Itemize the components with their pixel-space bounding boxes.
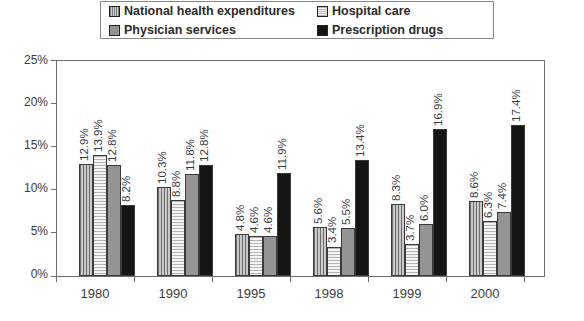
bars-container: 12.9% 13.9% 12.8% 8.2% 10.3% 8.8% 11.8% …: [57, 61, 544, 276]
bar-value-1999-0: 8.3%: [391, 175, 402, 201]
legend-label-national-health-expenditures: National health expenditures: [124, 5, 295, 18]
bar-1995-national-health-expenditures: [235, 234, 249, 276]
bar-value-1999-2: 6.0%: [419, 195, 430, 221]
bar-1999-physician-services: [419, 224, 433, 276]
chart-legend: National health expenditures Hospital ca…: [100, 1, 494, 39]
bar-value-2000-0: 8.6%: [469, 172, 480, 198]
bar-2000-prescription-drugs: [511, 125, 525, 276]
bar-value-1990-2: 11.8%: [185, 139, 196, 171]
bar-value-1990-1: 8.8%: [171, 171, 182, 197]
bar-1980-prescription-drugs: [121, 205, 135, 276]
bar-value-1980-1: 13.9%: [93, 119, 104, 152]
legend-swatch-icon-hospital-care: [317, 6, 328, 17]
bar-value-2000-1: 6.3%: [483, 192, 494, 218]
bar-value-1995-0: 4.8%: [235, 205, 246, 231]
bar-value-1980-3: 8.2%: [121, 176, 132, 202]
y-tick-label-25: 25%: [8, 54, 48, 66]
bar-1998-hospital-care: [327, 247, 341, 277]
bar-value-2000-3: 17.4%: [511, 89, 522, 122]
legend-entry-prescription-drugs: Prescription drugs: [317, 21, 443, 40]
bar-2000-national-health-expenditures: [469, 201, 483, 276]
plot-area: 12.9% 13.9% 12.8% 8.2% 10.3% 8.8% 11.8% …: [56, 60, 545, 277]
x-tick-mark-5: [524, 277, 525, 282]
bar-1980-national-health-expenditures: [79, 164, 93, 276]
bar-value-1998-3: 13.4%: [355, 124, 366, 157]
legend-entry-physician-services: Physician services: [109, 21, 236, 40]
bar-value-2000-2: 7.4%: [497, 183, 508, 209]
legend-label-hospital-care: Hospital care: [332, 5, 411, 18]
bar-1999-prescription-drugs: [433, 129, 447, 276]
bar-1999-hospital-care: [405, 244, 419, 276]
bar-1995-hospital-care: [249, 236, 263, 276]
x-tick-mark-0: [134, 277, 135, 282]
bar-value-1990-3: 12.8%: [199, 129, 210, 162]
bar-1998-prescription-drugs: [355, 160, 369, 276]
bar-1990-physician-services: [185, 174, 199, 276]
bar-value-1980-0: 12.9%: [79, 128, 90, 161]
x-tick-label-1995: 1995: [221, 287, 281, 301]
bar-1990-hospital-care: [171, 200, 185, 276]
x-tick-mark-3: [368, 277, 369, 282]
legend-row-2: Physician services Prescription drugs: [101, 21, 493, 40]
x-tick-label-1998: 1998: [299, 287, 359, 301]
legend-swatch-icon-physician-services: [109, 25, 120, 36]
y-tick-label-10: 10%: [8, 182, 48, 194]
bar-value-1999-1: 3.7%: [405, 215, 416, 241]
x-tick-label-1999: 1999: [377, 287, 437, 301]
y-tick-label-20: 20%: [8, 96, 48, 108]
bar-value-1995-1: 4.6%: [249, 207, 260, 233]
bar-1999-national-health-expenditures: [391, 204, 405, 276]
bar-2000-hospital-care: [483, 221, 497, 276]
bar-1990-national-health-expenditures: [157, 187, 171, 276]
x-tick-mark-4: [446, 277, 447, 282]
bar-value-1995-2: 4.6%: [263, 207, 274, 233]
bar-value-1990-0: 10.3%: [157, 151, 168, 184]
legend-label-prescription-drugs: Prescription drugs: [332, 24, 443, 37]
bar-value-1999-3: 16.9%: [433, 93, 444, 126]
legend-entry-hospital-care: Hospital care: [317, 2, 411, 21]
x-tick-mark-left-edge: [56, 277, 57, 282]
y-tick-label-5: 5%: [8, 225, 48, 237]
legend-label-physician-services: Physician services: [124, 24, 236, 37]
bar-1998-physician-services: [341, 228, 355, 276]
legend-swatch-icon-prescription-drugs: [317, 25, 328, 36]
bar-value-1998-2: 5.5%: [341, 199, 352, 225]
bar-1990-prescription-drugs: [199, 165, 213, 276]
y-tick-label-0: 0%: [8, 268, 48, 280]
bar-value-1980-2: 12.8%: [107, 129, 118, 162]
bar-value-1995-3: 11.9%: [277, 138, 288, 170]
x-tick-label-1980: 1980: [65, 287, 125, 301]
legend-row-1: National health expenditures Hospital ca…: [101, 2, 493, 21]
bar-1995-prescription-drugs: [277, 173, 291, 276]
legend-swatch-icon-national-health-expenditures: [109, 6, 120, 17]
legend-entry-national-health-expenditures: National health expenditures: [109, 2, 295, 21]
bar-1995-physician-services: [263, 236, 277, 276]
x-tick-mark-2: [290, 277, 291, 282]
bar-value-1998-0: 5.6%: [313, 198, 324, 224]
bar-1998-national-health-expenditures: [313, 227, 327, 276]
x-tick-mark-1: [212, 277, 213, 282]
bar-2000-physician-services: [497, 212, 511, 276]
x-tick-label-1990: 1990: [143, 287, 203, 301]
y-tick-label-15: 15%: [8, 139, 48, 151]
bar-1980-hospital-care: [93, 155, 107, 276]
bar-1980-physician-services: [107, 165, 121, 276]
bar-value-1998-1: 3.4%: [327, 217, 338, 243]
x-tick-label-2000: 2000: [455, 287, 515, 301]
